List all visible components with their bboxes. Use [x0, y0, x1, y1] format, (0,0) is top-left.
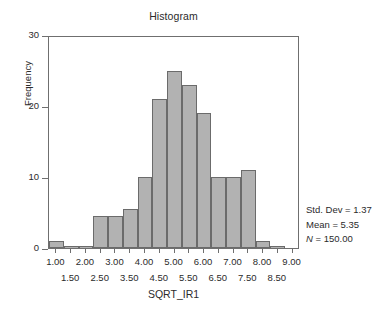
x-axis-tick	[85, 249, 86, 253]
x-axis-tick	[292, 249, 293, 253]
x-axis-label: SQRT_IR1	[48, 288, 299, 300]
x-axis-tick	[203, 249, 204, 253]
x-axis-tick	[144, 249, 145, 253]
y-axis-tick: 0	[42, 249, 48, 250]
x-axis-tick	[159, 249, 160, 253]
statistics-annotation: Std. Dev = 1.37 Mean = 5.35 N = 150.00	[306, 203, 372, 247]
histogram-bar	[49, 241, 64, 248]
histogram-bar	[123, 209, 138, 248]
y-axis-tick-label: 20	[28, 100, 39, 111]
x-axis-tick	[114, 249, 115, 253]
x-axis-tick	[277, 249, 278, 253]
n-symbol: N	[306, 233, 313, 244]
x-axis-tick	[174, 249, 175, 253]
x-axis-tick	[262, 249, 263, 253]
x-axis-tick	[233, 249, 234, 253]
histogram-bar	[241, 170, 256, 248]
y-axis-tick-label: 0	[34, 242, 39, 253]
x-axis-tick	[129, 249, 130, 253]
y-axis-label: Frequency	[22, 24, 33, 144]
x-axis-tick	[188, 249, 189, 253]
x-axis-tick	[70, 249, 71, 253]
x-axis-tick	[218, 249, 219, 253]
histogram-bar	[167, 71, 182, 249]
x-axis-tick-label-minor: 8.50	[260, 272, 294, 283]
histogram-bar	[138, 177, 153, 248]
n-text: N = 150.00	[306, 232, 372, 247]
x-axis-tick	[247, 249, 248, 253]
histogram-bar	[108, 216, 123, 248]
histogram-bar	[226, 177, 241, 248]
x-axis-tick	[55, 249, 56, 253]
x-axis-tick-label-major: 9.00	[275, 256, 309, 267]
histogram-bar	[93, 216, 108, 248]
histogram-bar	[182, 85, 197, 248]
histogram-bar	[79, 246, 94, 248]
std-dev-text: Std. Dev = 1.37	[306, 203, 372, 218]
histogram-bar	[197, 113, 212, 248]
y-axis-tick-label: 30	[28, 29, 39, 40]
n-value: = 150.00	[313, 233, 353, 244]
y-axis-tick-label: 10	[28, 171, 39, 182]
plot-area	[49, 37, 298, 248]
chart-title: Histogram	[48, 10, 299, 22]
histogram-bar	[270, 246, 285, 248]
histogram-bar	[211, 177, 226, 248]
histogram-bar	[152, 99, 167, 248]
mean-text: Mean = 5.35	[306, 218, 372, 233]
histogram-bar	[64, 246, 79, 248]
histogram-figure: Histogram Frequency 0102030 1.002.003.00…	[0, 0, 392, 316]
histogram-bar	[256, 241, 271, 248]
plot-frame	[48, 36, 299, 249]
x-axis-tick	[100, 249, 101, 253]
